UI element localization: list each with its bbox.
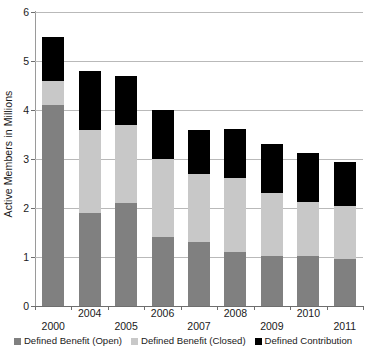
y-tick-mark (31, 159, 35, 160)
x-tick-label: 2008 (224, 308, 247, 319)
x-tick-label: 2007 (187, 321, 210, 332)
y-axis-title: Active Members in Millions (0, 0, 16, 308)
legend-item[interactable]: Defined Benefit (Closed) (131, 336, 246, 346)
x-tick-label: 2010 (297, 308, 320, 319)
gridline (35, 12, 363, 13)
y-axis-tick-labels: 0123456 (16, 0, 33, 314)
bar-segment[interactable] (115, 125, 137, 203)
y-tick-label: 3 (23, 154, 29, 164)
y-tick-label: 5 (23, 56, 29, 66)
y-tick-label: 4 (23, 105, 29, 115)
bar-segment[interactable] (152, 237, 174, 306)
legend-swatch-icon (14, 338, 21, 345)
bar-segment[interactable] (334, 206, 356, 260)
y-tick-mark (31, 208, 35, 209)
legend-label: Defined Benefit (Open) (24, 336, 122, 346)
bar-segment[interactable] (79, 213, 101, 306)
bar-stack[interactable] (334, 162, 356, 306)
bar-segment[interactable] (224, 129, 246, 178)
bar-segment[interactable] (261, 256, 283, 306)
bar-segment[interactable] (42, 105, 64, 306)
x-tick-label: 2000 (42, 321, 65, 332)
bar-segment[interactable] (261, 193, 283, 256)
bar-segment[interactable] (115, 76, 137, 125)
bar-segment[interactable] (297, 153, 319, 202)
bar-segment[interactable] (334, 162, 356, 205)
legend-label: Defined Contribution (265, 336, 352, 346)
legend-item[interactable]: Defined Benefit (Open) (14, 336, 122, 346)
y-tick-label: 2 (23, 203, 29, 213)
chart-legend: Defined Benefit (Open)Defined Benefit (C… (0, 334, 366, 348)
x-axis-tick-labels: 200020042005200620072008200920102011 (35, 306, 366, 336)
y-tick-label: 1 (23, 252, 29, 262)
x-tick-label: 2004 (78, 308, 101, 319)
gridline (35, 61, 363, 62)
legend-swatch-icon (131, 338, 138, 345)
y-tick-mark (31, 110, 35, 111)
y-tick-label: 6 (23, 7, 29, 17)
x-tick-label: 2005 (114, 321, 137, 332)
bar-segment[interactable] (188, 130, 210, 174)
bar-segment[interactable] (79, 130, 101, 213)
bar-segment[interactable] (334, 259, 356, 306)
bar-stack[interactable] (297, 153, 319, 306)
legend-label: Defined Benefit (Closed) (141, 336, 246, 346)
bar-segment[interactable] (188, 242, 210, 306)
legend-swatch-icon (255, 338, 262, 345)
y-tick-mark (31, 257, 35, 258)
y-tick-label: 0 (23, 301, 29, 311)
y-tick-mark (31, 61, 35, 62)
bar-segment[interactable] (297, 202, 319, 256)
stacked-bar-chart: Active Members in Millions 0123456 20002… (0, 0, 366, 352)
bar-segment[interactable] (115, 203, 137, 306)
x-tick-label: 2006 (151, 308, 174, 319)
bar-segment[interactable] (297, 256, 319, 306)
y-axis-title-text: Active Members in Millions (2, 91, 14, 218)
x-tick-label: 2011 (333, 321, 356, 332)
bar-segment[interactable] (79, 71, 101, 130)
plot-area (35, 12, 363, 306)
bar-segment[interactable] (152, 110, 174, 159)
bar-segment[interactable] (224, 178, 246, 252)
bar-stack[interactable] (79, 71, 101, 306)
bar-stack[interactable] (115, 76, 137, 306)
legend-item[interactable]: Defined Contribution (255, 336, 352, 346)
bar-segment[interactable] (261, 144, 283, 193)
x-tick-label: 2009 (260, 321, 283, 332)
bar-segment[interactable] (188, 174, 210, 243)
y-tick-mark (31, 12, 35, 13)
bar-stack[interactable] (188, 130, 210, 306)
bar-segment[interactable] (42, 81, 64, 106)
bar-stack[interactable] (261, 144, 283, 306)
bar-segment[interactable] (224, 252, 246, 306)
bar-stack[interactable] (42, 37, 64, 307)
bar-stack[interactable] (152, 110, 174, 306)
bar-segment[interactable] (152, 159, 174, 237)
bar-stack[interactable] (224, 129, 246, 306)
bar-segment[interactable] (42, 37, 64, 81)
